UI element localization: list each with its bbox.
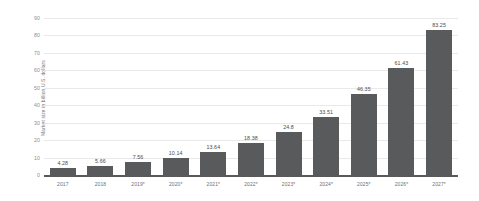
x-axis-tick-label: 2023* — [276, 181, 302, 195]
y-axis-tick-label: 60 — [24, 67, 40, 73]
bar-value-label: 7.56 — [133, 154, 144, 160]
x-axis-tick-label: 2018 — [87, 181, 113, 195]
bar-value-label: 4.28 — [57, 160, 68, 166]
bar-item[interactable]: 83.25 — [426, 18, 452, 175]
x-axis-tick-label: 2024* — [313, 181, 339, 195]
bar[interactable] — [87, 166, 113, 176]
y-axis-tick-label: 40 — [24, 102, 40, 108]
y-axis-tick-label: 0 — [24, 172, 40, 178]
bar[interactable] — [200, 152, 226, 176]
y-axis-tick-label: 80 — [24, 32, 40, 38]
y-axis-tick-label: 10 — [24, 155, 40, 161]
bar-series: 4.285.667.5610.1413.6418.3824.833.5146.3… — [44, 18, 458, 175]
x-axis-tick-label: 2019* — [125, 181, 151, 195]
x-axis-tick-label: 2017 — [50, 181, 76, 195]
bar[interactable] — [351, 94, 377, 175]
bar[interactable] — [388, 68, 414, 175]
bar-item[interactable]: 46.35 — [351, 18, 377, 175]
bar-value-label: 24.8 — [283, 124, 294, 130]
bar-item[interactable]: 10.14 — [163, 18, 189, 175]
x-axis-tick-label: 2020* — [163, 181, 189, 195]
bar-item[interactable]: 61.43 — [388, 18, 414, 175]
bar-value-label: 46.35 — [357, 86, 371, 92]
bar-value-label: 13.64 — [206, 144, 220, 150]
x-axis-line — [44, 175, 458, 177]
bar-value-label: 10.14 — [169, 150, 183, 156]
y-axis-tick-label: 20 — [24, 137, 40, 143]
bar[interactable] — [426, 30, 452, 176]
bar-value-label: 83.25 — [432, 22, 446, 28]
bar-item[interactable]: 13.64 — [200, 18, 226, 175]
bar[interactable] — [125, 162, 151, 175]
bar-item[interactable]: 24.8 — [276, 18, 302, 175]
y-axis-tick-label: 50 — [24, 85, 40, 91]
x-axis-tick-label: 2027* — [426, 181, 452, 195]
bar-value-label: 18.38 — [244, 135, 258, 141]
bar[interactable] — [313, 117, 339, 176]
bar[interactable] — [163, 158, 189, 176]
bar[interactable] — [50, 168, 76, 175]
bar-chart: Market size in billion U.S. dollars 0102… — [0, 0, 479, 201]
bar-item[interactable]: 4.28 — [50, 18, 76, 175]
bar[interactable] — [276, 132, 302, 175]
bar-item[interactable]: 18.38 — [238, 18, 264, 175]
x-axis-labels: 201720182019*2020*2021*2022*2023*2024*20… — [44, 181, 458, 195]
x-axis-tick-label: 2025* — [351, 181, 377, 195]
x-axis-tick-label: 2022* — [238, 181, 264, 195]
plot-area: Market size in billion U.S. dollars 0102… — [44, 18, 458, 177]
bar-item[interactable]: 33.51 — [313, 18, 339, 175]
bar-value-label: 5.66 — [95, 158, 106, 164]
y-axis-tick-label: 30 — [24, 120, 40, 126]
x-axis-tick-label: 2021* — [200, 181, 226, 195]
bar-value-label: 33.51 — [319, 109, 333, 115]
bar-value-label: 61.43 — [395, 60, 409, 66]
bar[interactable] — [238, 143, 264, 175]
bar-item[interactable]: 5.66 — [87, 18, 113, 175]
y-axis-tick-label: 90 — [24, 15, 40, 21]
y-axis-tick-label: 70 — [24, 50, 40, 56]
x-axis-tick-label: 2026* — [388, 181, 414, 195]
bar-item[interactable]: 7.56 — [125, 18, 151, 175]
